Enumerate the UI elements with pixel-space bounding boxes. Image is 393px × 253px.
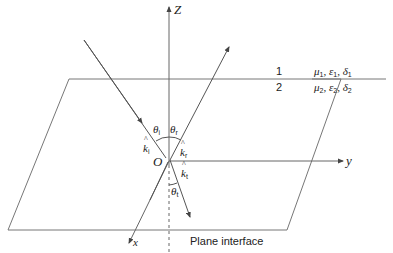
oblique-incidence-diagram: Z y x O 1 2 μ1, ε1, δ1 μ2, ε2, δ2 θi θr … [0, 0, 393, 253]
medium-1-properties: μ1, ε1, δ1 [314, 66, 352, 78]
origin-label: O [153, 155, 162, 168]
diagram-lines [0, 0, 393, 253]
y-axis-label: y [346, 154, 352, 167]
region-2-label: 2 [276, 82, 282, 93]
theta-i-label: θi [153, 124, 160, 136]
plane-interface-label: Plane interface [190, 236, 263, 247]
k-r-label: kr [180, 147, 187, 159]
theta-r-label: θr [170, 124, 178, 136]
z-axis-label: Z [174, 3, 181, 16]
reflected-angle-arc [169, 137, 181, 140]
region-1-label: 1 [276, 66, 282, 77]
incident-angle-arc [156, 137, 169, 141]
k-i-label: ki [143, 143, 149, 155]
interface-plane [8, 79, 341, 230]
reflected-ray [170, 47, 229, 160]
x-axis-label: x [133, 237, 138, 248]
k-t-label: kt [181, 168, 188, 180]
theta-t-label: θt [171, 186, 178, 198]
incident-ray-arrow [84, 40, 142, 123]
medium-2-properties: μ2, ε2, δ2 [314, 82, 352, 94]
